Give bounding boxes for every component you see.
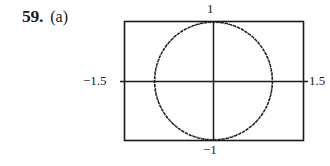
axis-label-right: 1.5 [309, 74, 325, 88]
axis-label-top: 1 [207, 2, 214, 16]
axis-label-bottom: −1 [203, 143, 217, 157]
graph-figure: 1 −1 −1.5 1.5 [0, 0, 330, 166]
axis-label-left: −1.5 [83, 74, 107, 88]
plot-canvas [0, 0, 330, 166]
